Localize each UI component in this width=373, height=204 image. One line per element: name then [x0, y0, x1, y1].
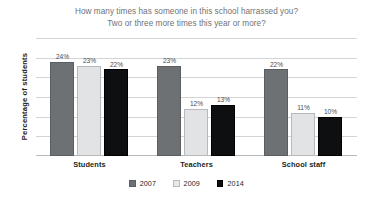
bar-slot: 10%	[318, 38, 342, 156]
bar-slot: 12%	[184, 38, 208, 156]
x-axis-category-labels: StudentsTeachersSchool staff	[36, 160, 357, 169]
legend-swatch-icon	[173, 180, 180, 187]
bar-value-label: 22%	[110, 61, 123, 68]
bar[interactable]	[318, 117, 342, 156]
bar[interactable]	[211, 105, 235, 156]
y-axis-label: Percentage of students	[20, 37, 29, 157]
bar[interactable]	[50, 62, 74, 156]
legend-swatch-icon	[217, 180, 224, 187]
bar-group: 24%23%22%	[36, 38, 143, 156]
plot-area: 24%23%22%23%12%13%22%11%10%	[36, 38, 357, 156]
legend-item-2014[interactable]: 2014	[217, 179, 244, 188]
bar[interactable]	[184, 109, 208, 156]
bar[interactable]	[291, 113, 315, 156]
legend-label: 2009	[184, 179, 200, 188]
bar-value-label: 23%	[83, 57, 96, 64]
bar[interactable]	[264, 69, 288, 156]
bar-value-label: 24%	[56, 53, 69, 60]
bar-value-label: 10%	[324, 108, 337, 115]
bar-group: 22%11%10%	[250, 38, 357, 156]
bar-slot: 13%	[211, 38, 235, 156]
bar-value-label: 12%	[190, 100, 203, 107]
bar-value-label: 13%	[217, 96, 230, 103]
bar-slot: 23%	[77, 38, 101, 156]
bar-slot: 22%	[104, 38, 128, 156]
legend-swatch-icon	[129, 180, 136, 187]
bar[interactable]	[77, 66, 101, 156]
x-axis-category-1: Teachers	[143, 160, 250, 169]
chart-title-line-2: Two or three more times this year or mor…	[0, 18, 373, 30]
bar-value-label: 11%	[297, 104, 310, 111]
bar-group: 23%12%13%	[143, 38, 250, 156]
bar-slot: 11%	[291, 38, 315, 156]
chart-legend: 200720092014	[0, 179, 373, 188]
x-axis-category-2: School staff	[250, 160, 357, 169]
legend-item-2009[interactable]: 2009	[173, 179, 200, 188]
legend-item-2007[interactable]: 2007	[129, 179, 156, 188]
bar-slot: 24%	[50, 38, 74, 156]
legend-label: 2014	[227, 179, 243, 188]
bar[interactable]	[157, 66, 181, 156]
chart-title-line-1: How many times has someone in this schoo…	[0, 6, 373, 18]
bar-slot: 23%	[157, 38, 181, 156]
bar-slot: 22%	[264, 38, 288, 156]
bar[interactable]	[104, 69, 128, 156]
chart-title: How many times has someone in this schoo…	[0, 6, 373, 29]
legend-label: 2007	[140, 179, 156, 188]
bar-chart: How many times has someone in this schoo…	[0, 0, 373, 204]
bar-value-label: 23%	[163, 57, 176, 64]
x-axis-category-0: Students	[36, 160, 143, 169]
bar-groups: 24%23%22%23%12%13%22%11%10%	[36, 38, 357, 156]
bar-value-label: 22%	[270, 61, 283, 68]
